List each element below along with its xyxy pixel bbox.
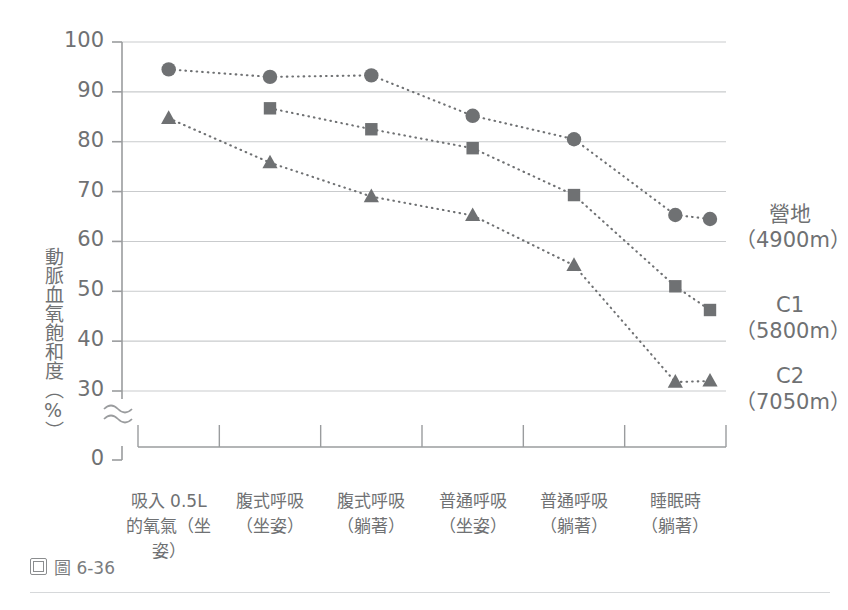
series-2-segment-2: [371, 197, 472, 216]
x-category-label-0-line2: 的氧氣（坐姿）: [118, 514, 219, 564]
legend-markers: [702, 212, 717, 387]
legend-label-C2: C2: [735, 363, 845, 389]
x-category-label-5: 睡眠時（躺著）: [625, 489, 726, 553]
marker-C2-4: [566, 257, 581, 271]
y-tick-label-50: 50: [48, 277, 104, 301]
series-1-segment-3: [574, 195, 675, 286]
series-2-segment-3: [473, 216, 574, 266]
marker-C1-3: [466, 142, 478, 154]
x-category-label-3-line2: （坐姿）: [422, 514, 523, 539]
legend-item-C2[interactable]: C2（7050m）: [735, 363, 845, 415]
axes: [104, 42, 726, 460]
legend-item-營地[interactable]: 營地（4900m）: [735, 201, 845, 253]
legend-altitude-C1: （5800m）: [735, 318, 845, 344]
x-category-label-4-line1: 普通呼吸: [540, 491, 608, 511]
x-category-label-0: 吸入 0.5L的氧氣（坐姿）: [118, 489, 219, 553]
series-2-legend-connector: [675, 381, 710, 382]
marker-營地-1: [263, 70, 277, 84]
y-tick-label-80: 80: [48, 128, 104, 152]
x-category-label-1-line2: （坐姿）: [219, 514, 320, 539]
series-1-segment-0: [270, 108, 371, 129]
x-category-label-3: 普通呼吸（坐姿）: [422, 489, 523, 553]
x-category-label-0-line1: 吸入 0.5L: [131, 491, 207, 511]
series-0-segment-1: [270, 75, 371, 76]
x-category-label-2: 腹式呼吸（躺著）: [321, 489, 422, 553]
series-0-segment-4: [574, 139, 675, 215]
axis-break-symbol: [104, 406, 132, 413]
x-category-label-4-line2: （躺著）: [523, 514, 624, 539]
marker-C1-5: [669, 280, 681, 292]
figure-6-36: 動脈血氧飽和度（%） 030405060708090100 吸入 0.5L的氧氣…: [0, 0, 848, 610]
x-category-label-5-line1: 睡眠時: [650, 491, 701, 511]
marker-C2-0: [161, 110, 176, 124]
y-tick-label-70: 70: [48, 178, 104, 202]
figure-caption-text: 圖 6-36: [54, 554, 115, 579]
y-tick-label-100: 100: [48, 28, 104, 52]
series-1-segment-2: [473, 148, 574, 195]
y-tick-label-40: 40: [48, 327, 104, 351]
x-category-label-2-line2: （躺著）: [321, 514, 422, 539]
legend-item-C1[interactable]: C1（5800m）: [735, 292, 845, 344]
marker-C1-2: [365, 123, 377, 135]
series-2-segment-4: [574, 265, 675, 382]
x-category-label-1-line1: 腹式呼吸: [236, 491, 304, 511]
x-category-label-1: 腹式呼吸（坐姿）: [219, 489, 320, 553]
marker-營地-3: [465, 109, 479, 123]
y-tick-label-30: 30: [48, 377, 104, 401]
legend-marker-C2: [702, 373, 717, 387]
y-tick-label-60: 60: [48, 227, 104, 251]
y-tick-label-90: 90: [48, 78, 104, 102]
marker-C1-1: [264, 102, 276, 114]
axis-break-symbol-2: [104, 416, 132, 423]
x-category-labels: 吸入 0.5L的氧氣（坐姿）腹式呼吸（坐姿）腹式呼吸（躺著）普通呼吸（坐姿）普通…: [118, 489, 726, 553]
series-lines: [169, 69, 710, 382]
marker-營地-2: [364, 68, 378, 82]
series-0-segment-0: [169, 69, 270, 76]
marker-C2-3: [465, 208, 480, 222]
legend-altitude-營地: （4900m）: [735, 227, 845, 253]
legend-marker-營地: [703, 212, 717, 226]
x-category-label-4: 普通呼吸（躺著）: [523, 489, 624, 553]
marker-營地-4: [567, 132, 581, 146]
legend-label-C1: C1: [735, 292, 845, 318]
series-2-segment-0: [169, 118, 270, 162]
figure-icon: [30, 558, 47, 575]
series-0-segment-2: [371, 75, 472, 115]
x-category-label-3-line1: 普通呼吸: [439, 491, 507, 511]
legend-label-營地: 營地: [735, 201, 845, 227]
y-tick-label-0: 0: [48, 446, 104, 470]
marker-C1-4: [568, 189, 580, 201]
legend-altitude-C2: （7050m）: [735, 389, 845, 415]
series-markers: [161, 62, 683, 387]
legend-marker-C1: [704, 304, 716, 316]
x-category-label-5-line2: （躺著）: [625, 514, 726, 539]
gridlines: [122, 42, 726, 391]
marker-營地-5: [668, 208, 682, 222]
marker-C2-1: [262, 155, 277, 169]
series-1-segment-1: [371, 129, 472, 148]
bottom-divider: [30, 592, 830, 593]
x-category-label-2-line1: 腹式呼吸: [337, 491, 405, 511]
series-0-segment-3: [473, 116, 574, 139]
marker-營地-0: [161, 62, 175, 76]
figure-caption: 圖 6-36: [30, 554, 115, 579]
